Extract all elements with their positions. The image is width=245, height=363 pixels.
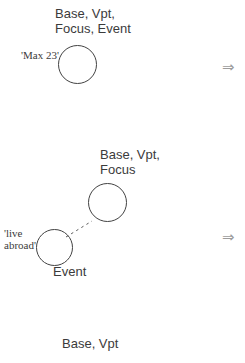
stage2-focus-circle bbox=[88, 183, 127, 222]
stage1-title: Base, Vpt, Focus, Event bbox=[55, 6, 131, 36]
live-abroad-label: 'live abroad' bbox=[4, 227, 36, 251]
stage3-title: Base, Vpt bbox=[62, 336, 118, 351]
stage2-event-circle bbox=[36, 229, 73, 266]
max23-label: 'Max 23' bbox=[21, 49, 59, 61]
diagram-canvas: Base, Vpt, Focus, Event 'Max 23' ⇒ Base,… bbox=[0, 0, 245, 363]
stage2-title: Base, Vpt, Focus bbox=[100, 147, 160, 177]
event-label: Event bbox=[53, 264, 86, 279]
stage1-circle bbox=[58, 45, 97, 84]
double-arrow-right-icon: ⇒ bbox=[222, 58, 235, 76]
double-arrow-right-icon: ⇒ bbox=[222, 228, 235, 246]
